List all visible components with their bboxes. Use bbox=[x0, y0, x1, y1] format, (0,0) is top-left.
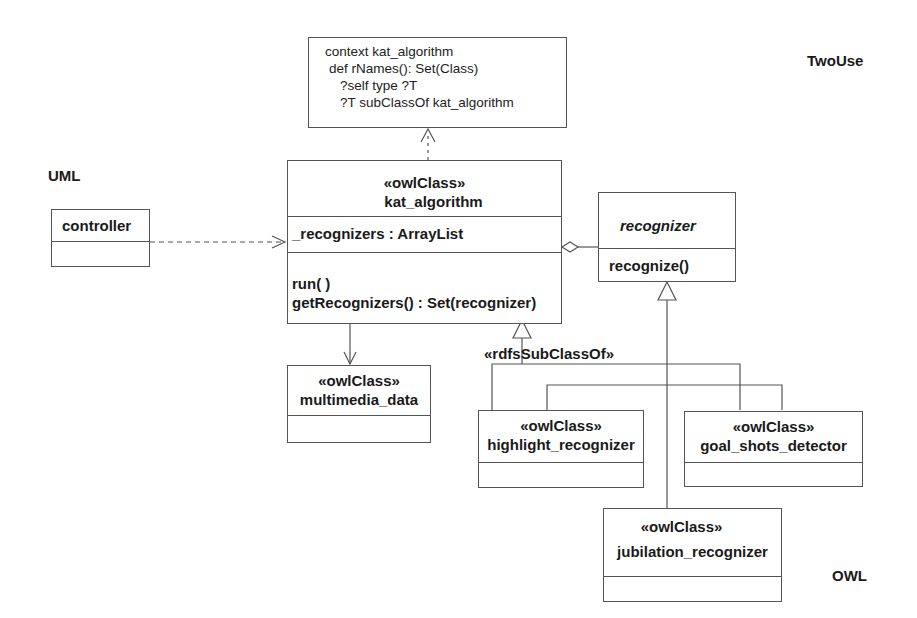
operation: recognize() bbox=[609, 256, 735, 275]
stereotype: «owlClass» bbox=[685, 417, 862, 436]
class-name: controller bbox=[62, 216, 149, 235]
subclass-line-kat bbox=[492, 364, 740, 410]
stereotype: «owlClass» bbox=[288, 371, 430, 390]
note-line: def rNames(): Set(Class) bbox=[325, 60, 566, 77]
class-jubilation-recognizer[interactable]: «owlClass» jubilation_recognizer bbox=[603, 508, 782, 602]
note-line: context kat_algorithm bbox=[325, 43, 566, 60]
class-name: kat_algorithm bbox=[288, 192, 561, 211]
ocl-note: context kat_algorithm def rNames(): Set(… bbox=[308, 37, 567, 128]
class-controller[interactable]: controller bbox=[51, 209, 150, 267]
class-name: multimedia_data bbox=[288, 390, 430, 409]
stereotype: «owlClass» bbox=[288, 173, 561, 192]
generalization-triangle-recognizer bbox=[658, 282, 676, 300]
class-multimedia-data[interactable]: «owlClass» multimedia_data bbox=[287, 365, 431, 443]
aggregation-diamond bbox=[562, 242, 578, 252]
class-highlight-recognizer[interactable]: «owlClass» highlight_recognizer bbox=[478, 410, 644, 488]
class-name: recognizer bbox=[620, 216, 735, 235]
operation: getRecognizers() : Set(recognizer) bbox=[292, 293, 561, 312]
class-goal-shots-detector[interactable]: «owlClass» goal_shots_detector bbox=[684, 411, 863, 487]
attribute: _recognizers : ArrayList bbox=[292, 224, 561, 243]
note-arrowhead bbox=[421, 129, 435, 142]
class-recognizer[interactable]: recognizer recognize() bbox=[598, 192, 736, 282]
uml-label: UML bbox=[48, 167, 81, 184]
stereotype: «owlClass» bbox=[604, 517, 781, 536]
subclass-stereotype-label: «rdfsSubClassOf» bbox=[484, 344, 614, 363]
owl-label: OWL bbox=[832, 567, 867, 584]
operation: run( ) bbox=[292, 274, 561, 293]
twouse-label: TwoUse bbox=[807, 52, 863, 69]
class-kat-algorithm[interactable]: «owlClass» kat_algorithm _recognizers : … bbox=[287, 160, 562, 324]
note-line: ?T subClassOf kat_algorithm bbox=[325, 94, 566, 111]
note-line: ?self type ?T bbox=[325, 77, 566, 94]
class-name: highlight_recognizer bbox=[479, 435, 643, 454]
class-name: goal_shots_detector bbox=[685, 436, 862, 455]
class-name: jubilation_recognizer bbox=[604, 536, 781, 561]
stereotype: «owlClass» bbox=[479, 416, 643, 435]
